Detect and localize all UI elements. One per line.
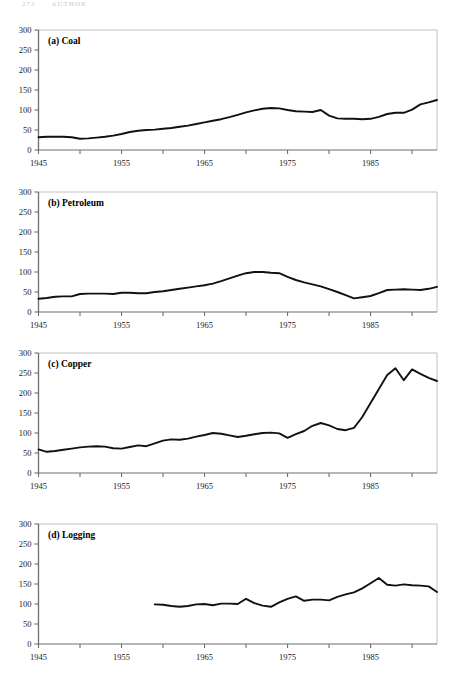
page-header-left: 272 xyxy=(22,0,36,8)
y-tick-label: 100 xyxy=(19,105,32,115)
x-tick-label: 1965 xyxy=(196,481,213,491)
x-tick-label: 1955 xyxy=(113,158,130,168)
y-tick-label: 300 xyxy=(19,187,32,197)
y-tick-label: 0 xyxy=(27,307,31,317)
x-tick-label: 1945 xyxy=(30,320,47,330)
y-tick-label: 0 xyxy=(27,639,31,649)
x-tick-label: 1945 xyxy=(30,652,47,662)
x-tick-label: 1985 xyxy=(362,158,379,168)
x-tick-label: 1945 xyxy=(30,158,47,168)
y-tick-label: 100 xyxy=(19,428,32,438)
x-tick-label: 1975 xyxy=(279,652,296,662)
y-tick-label: 300 xyxy=(19,519,32,529)
y-tick-label: 100 xyxy=(19,267,32,277)
plot-frame xyxy=(39,30,438,150)
y-tick-label: 300 xyxy=(19,348,32,358)
page-header-right: AUTHOR xyxy=(52,0,87,8)
x-tick-label: 1965 xyxy=(196,158,213,168)
x-tick-label: 1975 xyxy=(279,481,296,491)
y-tick-label: 250 xyxy=(19,45,32,55)
y-tick-label: 0 xyxy=(27,468,31,478)
y-tick-label: 200 xyxy=(19,388,32,398)
y-tick-label: 150 xyxy=(19,247,32,257)
y-tick-label: 250 xyxy=(19,539,32,549)
y-tick-label: 50 xyxy=(23,619,32,629)
y-tick-label: 200 xyxy=(19,65,32,75)
x-tick-label: 1955 xyxy=(113,320,130,330)
panel-title-logging: (d) Logging xyxy=(48,530,95,540)
y-tick-label: 150 xyxy=(19,408,32,418)
data-series-line xyxy=(39,368,438,452)
y-tick-label: 100 xyxy=(19,599,32,609)
x-tick-label: 1955 xyxy=(113,481,130,491)
panel-title-petroleum: (b) Petroleum xyxy=(48,198,104,208)
chart-panel-coal: 05010015020025030019451955196519751985 (… xyxy=(0,22,452,170)
y-tick-label: 50 xyxy=(23,287,32,297)
x-tick-label: 1975 xyxy=(279,158,296,168)
chart-panel-logging: 05010015020025030019451955196519751985 (… xyxy=(0,516,452,664)
chart-panel-copper: 05010015020025030019451955196519751985 (… xyxy=(0,345,452,493)
x-tick-label: 1985 xyxy=(362,652,379,662)
data-series-line xyxy=(39,272,438,299)
y-tick-label: 50 xyxy=(23,125,32,135)
data-series-line xyxy=(39,100,438,139)
x-tick-label: 1955 xyxy=(113,652,130,662)
x-tick-label: 1985 xyxy=(362,481,379,491)
x-tick-label: 1965 xyxy=(196,652,213,662)
panel-title-coal: (a) Coal xyxy=(48,36,80,46)
x-tick-label: 1985 xyxy=(362,320,379,330)
y-tick-label: 0 xyxy=(27,145,31,155)
x-tick-label: 1945 xyxy=(30,481,47,491)
y-tick-label: 250 xyxy=(19,207,32,217)
panel-title-copper: (c) Copper xyxy=(48,359,92,369)
page-header: 272AUTHOR xyxy=(22,0,87,8)
data-series-line xyxy=(155,578,437,607)
y-tick-label: 250 xyxy=(19,368,32,378)
chart-panel-petroleum: 05010015020025030019451955196519751985 (… xyxy=(0,184,452,332)
x-tick-label: 1975 xyxy=(279,320,296,330)
y-tick-label: 200 xyxy=(19,227,32,237)
y-tick-label: 150 xyxy=(19,579,32,589)
y-tick-label: 200 xyxy=(19,559,32,569)
x-tick-label: 1965 xyxy=(196,320,213,330)
plot-frame xyxy=(39,524,438,644)
y-tick-label: 50 xyxy=(23,448,32,458)
y-tick-label: 150 xyxy=(19,85,32,95)
y-tick-label: 300 xyxy=(19,25,32,35)
plot-frame xyxy=(39,353,438,473)
